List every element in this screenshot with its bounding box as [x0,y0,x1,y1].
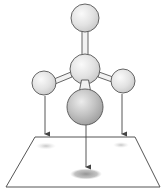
projection-plane [6,137,160,187]
front-atom-shadow [70,169,102,180]
center-atom [70,54,100,84]
diagram-canvas [0,0,162,190]
molecule-projection-diagram [0,0,162,190]
right-atom [111,69,135,93]
top-atom [71,4,99,32]
front-atom [67,89,103,125]
right-atom-shadow [113,142,129,148]
top-bond [82,30,88,56]
left-bond [54,72,72,84]
left-atom [32,71,56,95]
left-atom-shadow [36,143,56,150]
